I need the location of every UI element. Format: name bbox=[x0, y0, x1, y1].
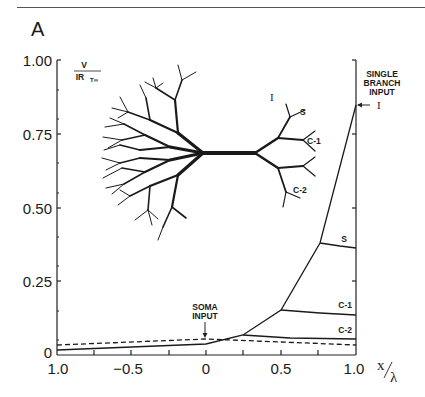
x-tick-label: 1.0 bbox=[344, 360, 365, 377]
y-tick-label: 0.75 bbox=[23, 126, 52, 143]
y-tick-label: 0.25 bbox=[23, 273, 52, 290]
x-tick-label: 0 bbox=[202, 360, 210, 377]
curve-C2 bbox=[243, 335, 356, 339]
tree-label-C1: C-1 bbox=[307, 136, 321, 146]
curve-S bbox=[320, 243, 356, 248]
tree-label-C2: C-2 bbox=[293, 185, 307, 195]
x-tick-label: 1.0 bbox=[48, 360, 69, 377]
svg-text:INPUT: INPUT bbox=[192, 311, 218, 321]
x-axis-numerator: x bbox=[377, 357, 385, 373]
tree-label-I: I bbox=[270, 91, 274, 103]
y-tick-label: 1.00 bbox=[23, 52, 52, 69]
x-axis-denominator: λ bbox=[390, 369, 398, 385]
single-branch-annotation: SINGLE BRANCH INPUT I bbox=[357, 69, 400, 111]
chart: 1.00 0.75 0.50 0.25 0 1.0 −0.5 0 0.5 1.0… bbox=[0, 0, 425, 397]
soma-input-annotation: SOMA INPUT bbox=[192, 302, 218, 338]
x-tick-label: 0.5 bbox=[271, 360, 292, 377]
y-axis-denominator: IR bbox=[76, 72, 85, 82]
x-tick-label: −0.5 bbox=[113, 360, 143, 377]
dendritic-tree-diagram bbox=[102, 65, 315, 240]
y-axis-numerator: V bbox=[81, 60, 87, 70]
arrow-label-I: I bbox=[377, 99, 381, 111]
curve-C1 bbox=[281, 310, 356, 315]
curve-label-C1: C-1 bbox=[338, 300, 352, 310]
svg-text:INPUT: INPUT bbox=[369, 87, 395, 97]
curve-label-C2: C-2 bbox=[338, 325, 352, 335]
y-axis bbox=[57, 60, 61, 355]
y-tick-label: 0 bbox=[44, 344, 52, 361]
tree-label-S: S bbox=[300, 107, 306, 117]
curve-label-S: S bbox=[341, 234, 347, 244]
y-tick-label: 0.50 bbox=[23, 200, 52, 217]
right-axis bbox=[352, 60, 356, 355]
y-axis-title: V IR T∞ bbox=[74, 60, 101, 83]
x-axis bbox=[57, 350, 356, 355]
y-axis-subscript: T∞ bbox=[90, 77, 98, 83]
x-axis-title: x λ bbox=[377, 357, 398, 385]
